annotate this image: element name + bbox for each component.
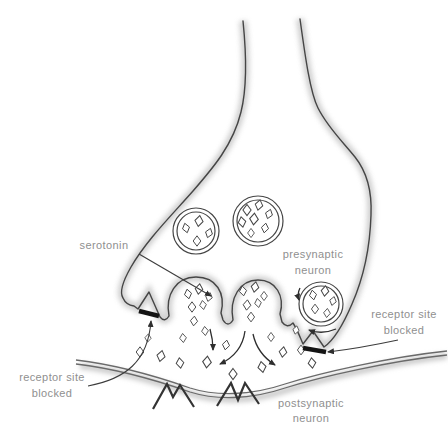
serotonin-diamond xyxy=(179,333,186,343)
release-cup-2-serotonin xyxy=(239,281,268,322)
release-cup-1-serotonin xyxy=(183,283,213,336)
presynaptic-neuron-label-line1: presynaptic xyxy=(283,248,344,260)
receptor-zigzag-2 xyxy=(217,383,259,406)
serotonin-diamond xyxy=(222,340,231,351)
postsynaptic-neuron-label-line1: postsynaptic xyxy=(278,397,344,409)
receptor-blocked-right-label-line2: blocked xyxy=(384,324,425,336)
serotonin-diamond xyxy=(183,288,192,299)
serotonin-diamond xyxy=(190,316,198,326)
receptor-blocked-right-label-line1: receptor site xyxy=(371,308,437,320)
serotonin-diamond xyxy=(268,332,275,341)
diffusion-arrow-down xyxy=(210,329,213,350)
vesicle-3-docking xyxy=(298,282,343,332)
receptor-blocked-left-label-line1: receptor site xyxy=(19,371,85,383)
synapse-diagram: serotonin presynaptic neuron receptor si… xyxy=(0,0,448,437)
serotonin-diamond xyxy=(175,357,184,368)
presynaptic-neuron-label-line2: neuron xyxy=(295,264,332,276)
blocked-right-pointer-line xyxy=(328,340,398,352)
labels: serotonin presynaptic neuron receptor si… xyxy=(19,239,437,424)
serotonin-diamond xyxy=(261,291,268,300)
postsynaptic-neuron-label-line2: neuron xyxy=(293,412,330,424)
serotonin-diamond xyxy=(308,357,317,368)
receptor-blocked-left-label-line2: blocked xyxy=(32,387,73,399)
serotonin-diamond xyxy=(199,300,207,310)
cleft-serotonin xyxy=(136,325,316,379)
serotonin-diamond xyxy=(201,326,208,336)
vesicle-1 xyxy=(173,208,219,254)
serotonin-diamond xyxy=(257,361,267,373)
serotonin-diamond xyxy=(243,299,252,310)
serotonin-diamond xyxy=(156,350,166,363)
serotonin-diamond xyxy=(247,312,254,322)
postsynaptic-membrane-upper xyxy=(76,351,447,394)
serotonin-diamond xyxy=(278,346,287,357)
serotonin-diamond xyxy=(229,368,237,379)
postsynaptic-neuron xyxy=(76,351,447,409)
synapse-diagram-canvas: serotonin presynaptic neuron receptor si… xyxy=(0,0,448,437)
serotonin-diamond xyxy=(202,356,212,368)
vesicle-2 xyxy=(233,196,283,246)
serotonin-diamond xyxy=(254,298,262,308)
serotonin-diamond xyxy=(188,302,196,312)
serotonin-label: serotonin xyxy=(80,239,129,251)
diffusion-arrows xyxy=(210,329,275,365)
